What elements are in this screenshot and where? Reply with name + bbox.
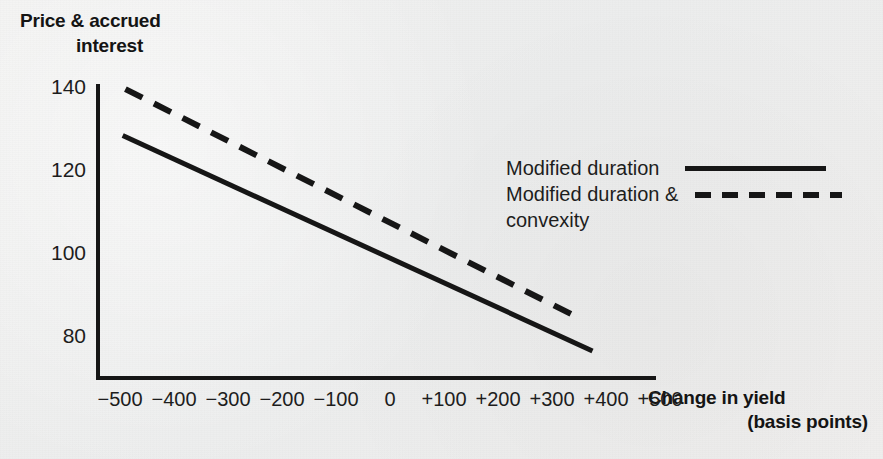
y-tick-label: 100	[8, 242, 86, 263]
x-tick-label: −500	[97, 388, 142, 410]
legend-swatch-solid-line	[685, 166, 826, 171]
legend-label-line-1: Modified duration &	[506, 183, 678, 205]
x-tick-label: +500	[637, 388, 682, 410]
x-axis-line	[96, 376, 656, 380]
y-tick-label: 140	[8, 76, 86, 97]
y-tick-label: 80	[8, 325, 86, 346]
legend-item-modified-duration: Modified duration	[506, 155, 866, 181]
y-axis-tick-labels: 14012010080	[0, 0, 86, 459]
legend-label-modified-duration: Modified duration	[506, 157, 659, 179]
chart-figure: Price & accrued interest 14012010080 Cha…	[0, 0, 883, 459]
x-tick-label: +200	[475, 388, 520, 410]
y-tick-label: 120	[8, 159, 86, 180]
x-tick-label: 0	[384, 388, 395, 410]
x-tick-label: +300	[529, 388, 574, 410]
x-tick-label: +400	[583, 388, 628, 410]
legend-label-modified-duration-convexity: Modified duration & convexity	[506, 183, 866, 233]
legend-item-modified-duration-convexity: Modified duration & convexity	[506, 181, 866, 207]
legend-label-line-2: convexity	[506, 207, 866, 233]
legend-swatch-dashed-line	[695, 192, 842, 198]
x-tick-label: −200	[259, 388, 304, 410]
x-axis-title-line-2: (basis points)	[648, 410, 876, 434]
chart-legend: Modified duration Modified duration & co…	[506, 155, 866, 207]
x-tick-label: −400	[151, 388, 196, 410]
x-tick-label: −300	[205, 388, 250, 410]
x-tick-label: +100	[421, 388, 466, 410]
y-axis-line	[96, 84, 100, 380]
x-tick-label: −100	[313, 388, 358, 410]
